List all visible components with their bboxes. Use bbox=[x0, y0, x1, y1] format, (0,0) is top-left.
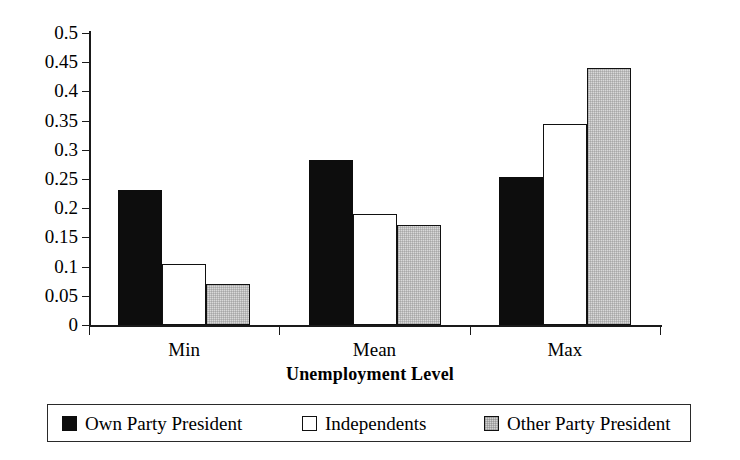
y-axis-tick-label: 0.3 bbox=[0, 140, 78, 159]
bar-min-series-2 bbox=[206, 284, 250, 325]
bar-mean-series-1 bbox=[353, 214, 397, 325]
bar-mean-series-2 bbox=[397, 225, 441, 325]
legend-item-0: Own Party President bbox=[62, 414, 242, 433]
legend-label: Other Party President bbox=[507, 414, 671, 433]
y-axis-tick-label: 0.2 bbox=[0, 198, 78, 217]
x-axis-line bbox=[89, 325, 662, 327]
x-axis-label-max: Max bbox=[470, 339, 660, 361]
x-axis-tick bbox=[660, 326, 661, 335]
x-axis-label-mean: Mean bbox=[279, 339, 469, 361]
bar-max-series-2 bbox=[587, 68, 631, 325]
x-axis-label-min: Min bbox=[89, 339, 279, 361]
bar-min-series-0 bbox=[118, 190, 162, 325]
legend-item-1: Independents bbox=[302, 414, 426, 433]
x-axis-tick bbox=[89, 326, 90, 335]
bar-mean-series-0 bbox=[309, 160, 353, 325]
y-axis-tick-label: 0.5 bbox=[0, 23, 78, 42]
y-axis-tick-label: 0.15 bbox=[0, 227, 78, 246]
y-axis-tick-label: 0.1 bbox=[0, 257, 78, 276]
x-axis-title: Unemployment Level bbox=[0, 364, 740, 385]
y-axis-tick-label: 0.35 bbox=[0, 111, 78, 130]
legend-swatch-gray bbox=[484, 416, 499, 431]
legend-item-2: Other Party President bbox=[484, 414, 671, 433]
y-axis-tick-label: 0.05 bbox=[0, 286, 78, 305]
bar-max-series-0 bbox=[499, 177, 543, 325]
bar-max-series-1 bbox=[543, 124, 587, 325]
legend-swatch-white bbox=[302, 416, 317, 431]
y-axis-tick-label: 0.25 bbox=[0, 169, 78, 188]
bar-min-series-1 bbox=[162, 264, 206, 325]
legend-label: Own Party President bbox=[85, 414, 242, 433]
x-axis-tick bbox=[470, 326, 471, 335]
y-axis-tick-label: 0 bbox=[0, 315, 78, 334]
bar-chart-figure: 0.50.450.40.350.30.250.20.150.10.050 Min… bbox=[0, 0, 740, 460]
plot-area bbox=[89, 33, 660, 325]
x-axis-tick bbox=[279, 326, 280, 335]
legend-label: Independents bbox=[325, 414, 426, 433]
y-axis-tick-label: 0.4 bbox=[0, 81, 78, 100]
chart-legend: Own Party PresidentIndependentsOther Par… bbox=[47, 404, 691, 442]
legend-swatch-black bbox=[62, 416, 77, 431]
y-axis-tick-label: 0.45 bbox=[0, 52, 78, 71]
